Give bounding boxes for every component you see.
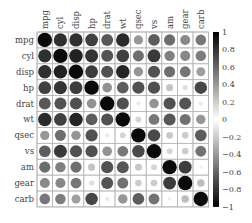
- correlation-cell: [86, 129, 98, 141]
- row-label-vs: vs: [24, 146, 34, 156]
- colorbar-tick: 1: [222, 28, 227, 37]
- colorbar-tick: −0.4: [222, 150, 241, 159]
- correlation-cell: [39, 162, 50, 173]
- correlation-cell: [101, 177, 113, 189]
- row-label-qsec: qsec: [14, 130, 34, 140]
- row-label-cyl: cyl: [22, 51, 35, 61]
- row-labels: mpgcyldisphpdratwtqsecvsamgearcarb: [14, 35, 35, 204]
- correlation-cell: [196, 67, 205, 76]
- correlation-cell: [180, 114, 191, 125]
- correlation-cell: [85, 193, 97, 205]
- correlation-cell: [54, 98, 66, 110]
- correlation-cell: [40, 131, 49, 140]
- correlation-cell: [136, 101, 140, 105]
- correlation-cell: [40, 178, 50, 188]
- colorbar-tick: 0.8: [222, 45, 235, 54]
- row-label-drat: drat: [16, 99, 35, 109]
- correlation-cell: [166, 132, 173, 139]
- correlation-cell: [54, 33, 67, 46]
- correlation-cell: [71, 178, 82, 189]
- col-label-am: am: [165, 16, 175, 29]
- correlation-cell: [55, 194, 65, 204]
- row-label-disp: disp: [16, 67, 35, 77]
- correlation-cell: [117, 146, 128, 157]
- correlation-cell: [183, 85, 188, 90]
- col-label-vs: vs: [149, 20, 159, 30]
- correlation-cell: [38, 81, 51, 94]
- correlation-cell: [102, 83, 112, 93]
- correlation-cell: [69, 65, 83, 79]
- correlation-cell: [180, 51, 190, 61]
- correlation-cell: [147, 144, 161, 158]
- correlation-cell: [101, 66, 113, 78]
- correlation-cell: [196, 51, 206, 61]
- correlation-cell: [195, 81, 207, 93]
- correlation-cell: [71, 131, 80, 140]
- correlation-cell: [196, 115, 205, 124]
- correlation-cell: [181, 195, 188, 202]
- correlation-cell: [55, 130, 66, 141]
- correlation-cell: [164, 51, 174, 61]
- correlation-cell: [55, 178, 65, 188]
- correlation-plot: mpgcyldisphpdratwtqsecvsamgearcarb mpgcy…: [0, 0, 252, 223]
- col-label-gear: gear: [180, 8, 190, 29]
- correlation-cell: [85, 34, 98, 47]
- correlation-cell: [116, 33, 129, 46]
- correlation-cell: [149, 114, 160, 125]
- correlation-cell: [88, 164, 95, 171]
- correlation-cell: [164, 66, 175, 77]
- correlation-cell: [70, 162, 81, 173]
- col-label-disp: disp: [71, 10, 81, 29]
- colorbar-tick: −1: [222, 203, 234, 212]
- correlation-cell: [101, 50, 113, 62]
- correlation-cell: [72, 194, 81, 203]
- correlation-cell: [39, 98, 51, 110]
- correlation-cell: [182, 132, 189, 139]
- colorbar-tick: 0: [222, 115, 227, 124]
- correlation-cell: [180, 35, 190, 45]
- correlation-cell: [87, 99, 97, 109]
- correlation-cell: [117, 178, 128, 189]
- colorbar-tick: 0.4: [222, 80, 235, 89]
- correlation-cell: [167, 148, 173, 154]
- correlation-cell: [70, 81, 83, 94]
- correlation-cell: [38, 113, 51, 126]
- correlation-cell: [134, 35, 143, 44]
- correlation-cell: [194, 192, 208, 206]
- correlation-cell: [116, 49, 129, 62]
- correlation-cell: [163, 177, 176, 190]
- correlation-cell: [101, 113, 113, 125]
- row-label-hp: hp: [23, 83, 34, 93]
- col-label-wt: wt: [118, 18, 128, 29]
- correlation-cell: [199, 101, 203, 105]
- correlation-cell: [89, 180, 94, 185]
- correlation-cell: [105, 197, 109, 201]
- col-label-qsec: qsec: [133, 9, 143, 29]
- correlation-cell: [70, 97, 82, 109]
- correlation-cell: [135, 180, 142, 187]
- row-label-carb: carb: [15, 194, 35, 204]
- correlation-cell: [100, 96, 114, 110]
- correlation-cell: [151, 180, 158, 187]
- correlation-cell: [178, 176, 192, 190]
- correlation-cell: [135, 164, 142, 171]
- col-label-hp: hp: [87, 18, 97, 29]
- correlation-cell: [164, 113, 176, 125]
- correlation-cell: [179, 98, 191, 110]
- correlation-cell: [38, 49, 51, 62]
- correlation-cell: [148, 82, 160, 94]
- correlation-cell: [101, 34, 113, 46]
- correlation-cell: [39, 194, 50, 205]
- correlation-cell: [195, 130, 207, 142]
- correlation-cell: [55, 162, 65, 172]
- correlation-cell: [69, 113, 83, 127]
- correlation-cell: [132, 82, 144, 94]
- correlation-cell: [133, 50, 144, 61]
- correlation-cell: [148, 34, 160, 46]
- row-label-mpg: mpg: [15, 35, 35, 45]
- correlation-cell: [148, 49, 161, 62]
- correlation-cell: [85, 145, 97, 157]
- correlation-cell: [133, 193, 145, 205]
- correlation-cell: [54, 81, 67, 94]
- correlation-cell: [195, 146, 206, 157]
